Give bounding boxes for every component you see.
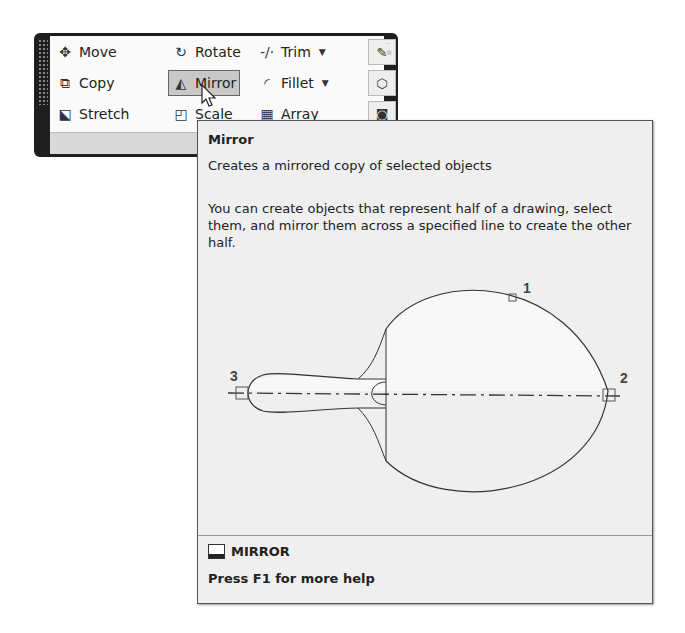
- mirror-diagram: 1 2 3: [228, 271, 628, 511]
- command-line-icon: [208, 544, 225, 559]
- pin-icon[interactable]: ▪: [386, 48, 396, 57]
- trim-icon: -/·: [258, 43, 276, 61]
- panel-side-controls: – ▪: [386, 39, 396, 57]
- rotate-icon: ↻: [172, 43, 190, 61]
- trim-button[interactable]: -/· Trim ▼: [258, 40, 326, 64]
- tooltip-body: You can create objects that represent ha…: [208, 200, 646, 251]
- chevron-down-icon[interactable]: ▼: [319, 47, 326, 57]
- panel-grip[interactable]: [38, 39, 48, 105]
- fillet-button[interactable]: ◜ Fillet ▼: [258, 71, 329, 95]
- point-label-2: 2: [620, 370, 628, 386]
- mirror-icon: ◭: [172, 74, 190, 92]
- chevron-down-icon[interactable]: ▼: [322, 78, 329, 88]
- tooltip-divider: [198, 535, 652, 536]
- stretch-button[interactable]: ⬕ Stretch: [56, 102, 130, 126]
- tooltip-description: Creates a mirrored copy of selected obje…: [208, 158, 492, 173]
- cube-icon: ⬡: [376, 76, 387, 91]
- point-label-1: 1: [523, 280, 531, 296]
- copy-button[interactable]: ⧉ Copy: [56, 71, 115, 95]
- mouse-cursor-icon: [201, 84, 219, 108]
- scale-icon: ◰: [172, 105, 190, 123]
- stretch-icon: ⬕: [56, 105, 74, 123]
- rotate-button[interactable]: ↻ Rotate: [172, 40, 241, 64]
- copy-icon: ⧉: [56, 74, 74, 92]
- mirror-tooltip: Mirror Creates a mirrored copy of select…: [197, 120, 653, 604]
- 3d-operations-button[interactable]: ⬡: [368, 70, 396, 96]
- tooltip-help-hint: Press F1 for more help: [208, 571, 375, 586]
- point-label-3: 3: [230, 368, 238, 384]
- move-icon: ✥: [56, 43, 74, 61]
- tooltip-command: MIRROR: [208, 544, 290, 559]
- tooltip-title: Mirror: [208, 132, 254, 147]
- move-button[interactable]: ✥ Move: [56, 40, 117, 64]
- fillet-icon: ◜: [258, 74, 276, 92]
